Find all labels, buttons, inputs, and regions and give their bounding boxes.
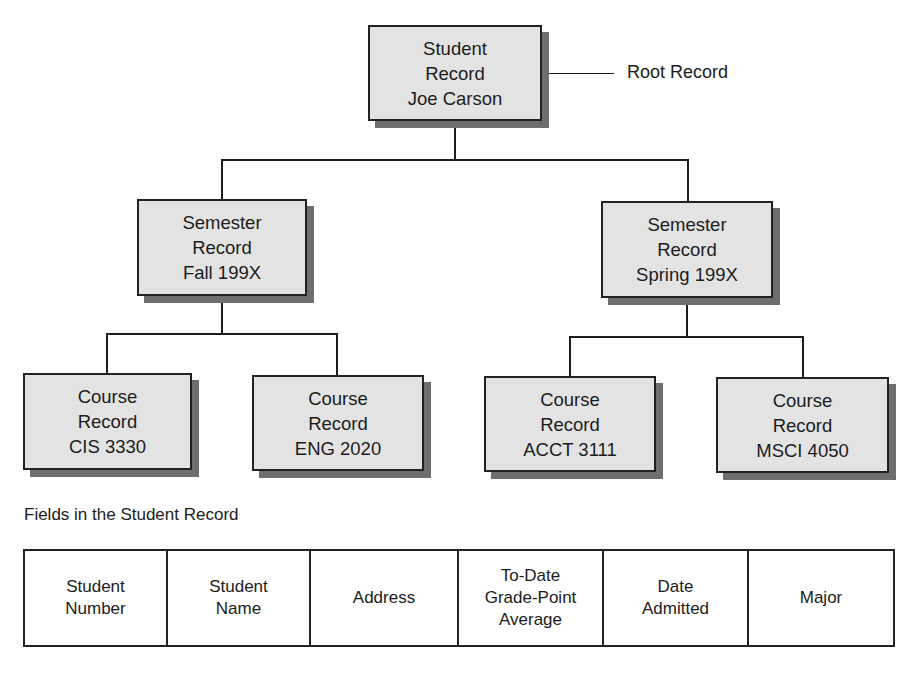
- connector-to-fall: [221, 159, 223, 200]
- course-line: CIS 3330: [69, 434, 146, 459]
- connector-fall-down: [221, 295, 223, 335]
- field-student-name: StudentName: [168, 551, 311, 645]
- field-line: Grade-Point: [485, 587, 577, 609]
- course-line: Record: [773, 413, 833, 438]
- connector-to-spring: [687, 159, 689, 202]
- course-line: Course: [773, 388, 833, 413]
- course-record-cis: Course Record CIS 3330: [23, 373, 192, 470]
- connector-root-horizontal: [221, 159, 689, 161]
- student-record-fields-table: StudentNumber StudentName Address To-Dat…: [23, 549, 895, 647]
- field-date-admitted: DateAdmitted: [604, 551, 749, 645]
- semester-line: Spring 199X: [636, 262, 738, 287]
- semester-record-spring: Semester Record Spring 199X: [601, 201, 773, 298]
- field-line: Name: [209, 598, 268, 620]
- connector-to-cis: [106, 333, 108, 374]
- course-line: ACCT 3111: [523, 437, 617, 462]
- root-record-annotation: Root Record: [627, 62, 728, 83]
- field-line: Number: [65, 598, 125, 620]
- field-major: Major: [749, 551, 893, 645]
- field-line: Average: [485, 609, 577, 631]
- course-line: ENG 2020: [295, 436, 381, 461]
- connector-root-down: [454, 120, 456, 161]
- course-line: Record: [540, 412, 600, 437]
- root-record-line: Student: [423, 36, 487, 61]
- field-line: To-Date: [485, 565, 577, 587]
- connector-to-msci: [802, 336, 804, 378]
- course-line: Record: [308, 411, 368, 436]
- semester-line: Fall 199X: [183, 260, 261, 285]
- field-student-number: StudentNumber: [25, 551, 168, 645]
- semester-line: Semester: [647, 212, 726, 237]
- semester-record-fall: Semester Record Fall 199X: [137, 199, 307, 296]
- connector-to-acct: [569, 336, 571, 377]
- fields-caption: Fields in the Student Record: [24, 505, 239, 525]
- field-line: Major: [800, 587, 843, 609]
- connector-to-eng: [336, 333, 338, 376]
- connector-spring-horizontal: [569, 336, 804, 338]
- course-record-acct: Course Record ACCT 3111: [484, 376, 656, 472]
- semester-line: Record: [657, 237, 717, 262]
- semester-line: Semester: [182, 210, 261, 235]
- field-line: Admitted: [642, 598, 709, 620]
- field-line: Student: [65, 576, 125, 598]
- root-record-box: Student Record Joe Carson: [368, 25, 542, 121]
- course-line: Record: [78, 409, 138, 434]
- root-record-line: Joe Carson: [408, 86, 503, 111]
- course-line: MSCI 4050: [756, 438, 849, 463]
- field-gpa: To-DateGrade-PointAverage: [459, 551, 604, 645]
- field-address: Address: [311, 551, 459, 645]
- connector-root-annotation: [548, 73, 614, 74]
- field-line: Student: [209, 576, 268, 598]
- field-line: Date: [642, 576, 709, 598]
- course-record-msci: Course Record MSCI 4050: [716, 377, 889, 473]
- semester-line: Record: [192, 235, 252, 260]
- connector-spring-down: [686, 297, 688, 337]
- course-line: Course: [308, 386, 368, 411]
- course-record-eng: Course Record ENG 2020: [252, 375, 424, 471]
- course-line: Course: [540, 387, 600, 412]
- field-line: Address: [353, 587, 415, 609]
- root-record-line: Record: [425, 61, 485, 86]
- connector-fall-horizontal: [106, 333, 338, 335]
- course-line: Course: [78, 384, 138, 409]
